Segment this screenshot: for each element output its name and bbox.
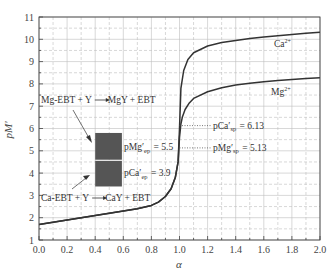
x-tick-label: 2.0 [314, 244, 327, 255]
indicator-boxes [95, 133, 122, 187]
y-tick-label: 5 [29, 145, 34, 156]
x-tick-label: 0.2 [61, 244, 74, 255]
mg-ebt-color-box [95, 133, 122, 160]
x-axis-label: α [176, 258, 182, 270]
y-tick-label: 4 [29, 168, 34, 179]
x-tick-label: 1.6 [258, 244, 271, 255]
y-tick-label: 1 [29, 235, 34, 246]
x-tick-label: 1.8 [286, 244, 299, 255]
y-tick-label: 7 [29, 101, 34, 112]
x-tick-label: 1.2 [201, 244, 214, 255]
y-tick-label: 3 [29, 190, 34, 201]
pmg-sp-label: pMg′sp = 5.13 [213, 143, 267, 155]
y-tick-label: 8 [29, 78, 34, 89]
y-tick-label: 10 [24, 34, 34, 45]
y-tick-label: 9 [29, 56, 34, 67]
mg-series-label: Mg2+ [271, 86, 291, 97]
ca-ebt-color-box [95, 161, 122, 187]
x-tick-label: 0.6 [117, 244, 130, 255]
annotations: Mg-EBT + Y MgY + EBTCa-EBT + Y CaY + EBT… [41, 38, 292, 203]
chart: 0.00.20.40.60.81.01.21.41.61.82.01234567… [0, 0, 335, 278]
pca-sp-label: pCa′sp = 6.13 [213, 121, 264, 133]
pca-ep-label: pCa′ep = 3.9 [124, 168, 171, 180]
pmg-ep-label: pMg′ep = 5.5 [124, 142, 173, 154]
y-tick-label: 2 [29, 212, 34, 223]
x-tick-label: 0.8 [145, 244, 158, 255]
y-axis-label: pM' [2, 121, 14, 140]
x-tick-label: 1.0 [173, 244, 186, 255]
x-tick-label: 0.4 [89, 244, 102, 255]
ca-series-label: Ca2+ [274, 38, 292, 49]
x-tick-label: 1.4 [229, 244, 242, 255]
x-tick-label: 0.0 [33, 244, 46, 255]
y-tick-label: 6 [29, 123, 34, 134]
y-tick-label: 11 [24, 12, 34, 23]
